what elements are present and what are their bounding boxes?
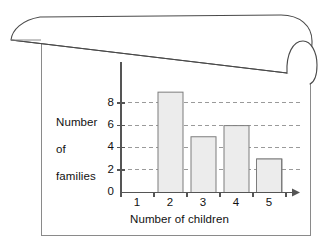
figure-canvas: 8 6 4 2 0 1 2 3 4 5 Number of families N… [0,0,328,249]
y-axis-title: Number of families [56,102,98,197]
x-axis-arrow-icon [292,189,300,197]
bar-1 [158,92,183,192]
ytick-label-2: 2 [100,163,114,175]
xtick-label-3: 3 [194,196,212,208]
xtick-label-5: 5 [260,196,278,208]
bar-5 [257,159,282,193]
bar-chart [0,0,328,249]
ytick-label-6: 6 [100,118,114,130]
xtick-label-4: 4 [227,196,245,208]
y-axis-title-line-2: of [56,143,98,157]
bars [158,92,282,192]
y-axis-title-line-1: Number [56,116,98,130]
y-axis-title-line-3: families [56,170,98,184]
x-axis-title: Number of children [130,213,229,225]
bar-3 [224,126,249,193]
xtick-label-1: 1 [128,196,146,208]
ytick-label-8: 8 [100,96,114,108]
bar-2 [191,137,216,193]
ytick-label-0: 0 [100,185,114,197]
xtick-label-2: 2 [161,196,179,208]
ytick-label-4: 4 [100,140,114,152]
